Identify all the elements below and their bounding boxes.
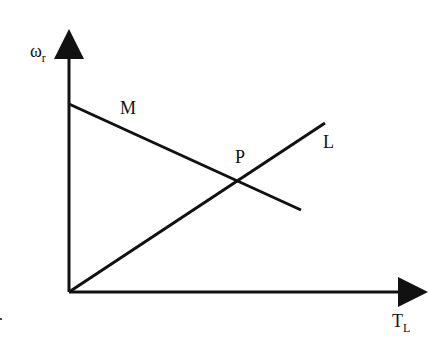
diagram-canvas bbox=[0, 0, 429, 349]
label-p: P bbox=[235, 148, 245, 166]
stray-dot bbox=[0, 318, 2, 320]
line-l bbox=[69, 123, 325, 292]
y-axis-label: ωr bbox=[30, 42, 46, 64]
x-axis-label: TL bbox=[392, 312, 410, 334]
label-l: L bbox=[323, 133, 334, 151]
label-m: M bbox=[120, 99, 136, 117]
line-m bbox=[69, 104, 301, 210]
